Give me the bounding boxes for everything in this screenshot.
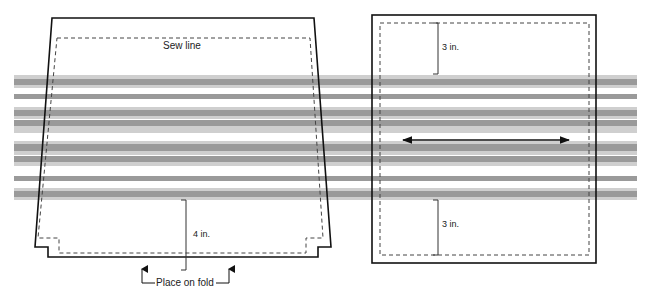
pattern-diagram: Sew line 4 in. Place on fold 3 in. 3 in.	[0, 0, 645, 291]
right-piece-outline	[372, 15, 596, 263]
sew-line-label: Sew line	[163, 40, 201, 51]
top-margin-bracket	[433, 23, 438, 74]
left-piece-sew-line	[38, 38, 323, 253]
bottom-margin-label: 3 in.	[442, 219, 459, 229]
bottom-margin-bracket	[433, 200, 438, 255]
height-dimension-bracket	[181, 200, 186, 270]
right-piece-sew-line	[380, 23, 589, 255]
place-on-fold-label: Place on fold	[156, 277, 214, 288]
top-margin-label: 3 in.	[442, 42, 459, 52]
pattern-pieces	[0, 0, 645, 291]
height-dimension-label: 4 in.	[193, 229, 210, 239]
left-piece-outline	[35, 18, 331, 257]
